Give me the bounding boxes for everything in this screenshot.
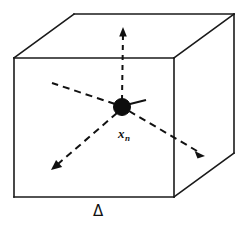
cube-back-bottom-right-edge bbox=[174, 153, 234, 197]
ray-up bbox=[122, 34, 123, 100]
ray-lower-right-arrowhead bbox=[195, 151, 205, 159]
center-node-dot bbox=[114, 99, 131, 116]
ray-up-arrowhead bbox=[119, 27, 127, 37]
center-node bbox=[114, 99, 131, 116]
node-label: xn bbox=[118, 127, 130, 143]
node-label-symbol: x bbox=[118, 126, 125, 141]
ray-upper-left bbox=[52, 83, 115, 104]
cube-depth-edge-top-left bbox=[14, 14, 74, 58]
node-label-subscript: n bbox=[125, 133, 130, 143]
cube-depth-edge-top-right bbox=[174, 14, 234, 58]
ray-lower-left bbox=[58, 113, 117, 164]
direction-rays bbox=[51, 27, 205, 170]
figure-container: xn Δ bbox=[0, 0, 245, 230]
ray-lower-right bbox=[129, 111, 197, 151]
cube-diagram-canvas bbox=[0, 0, 245, 230]
delta-label: Δ bbox=[93, 204, 103, 219]
